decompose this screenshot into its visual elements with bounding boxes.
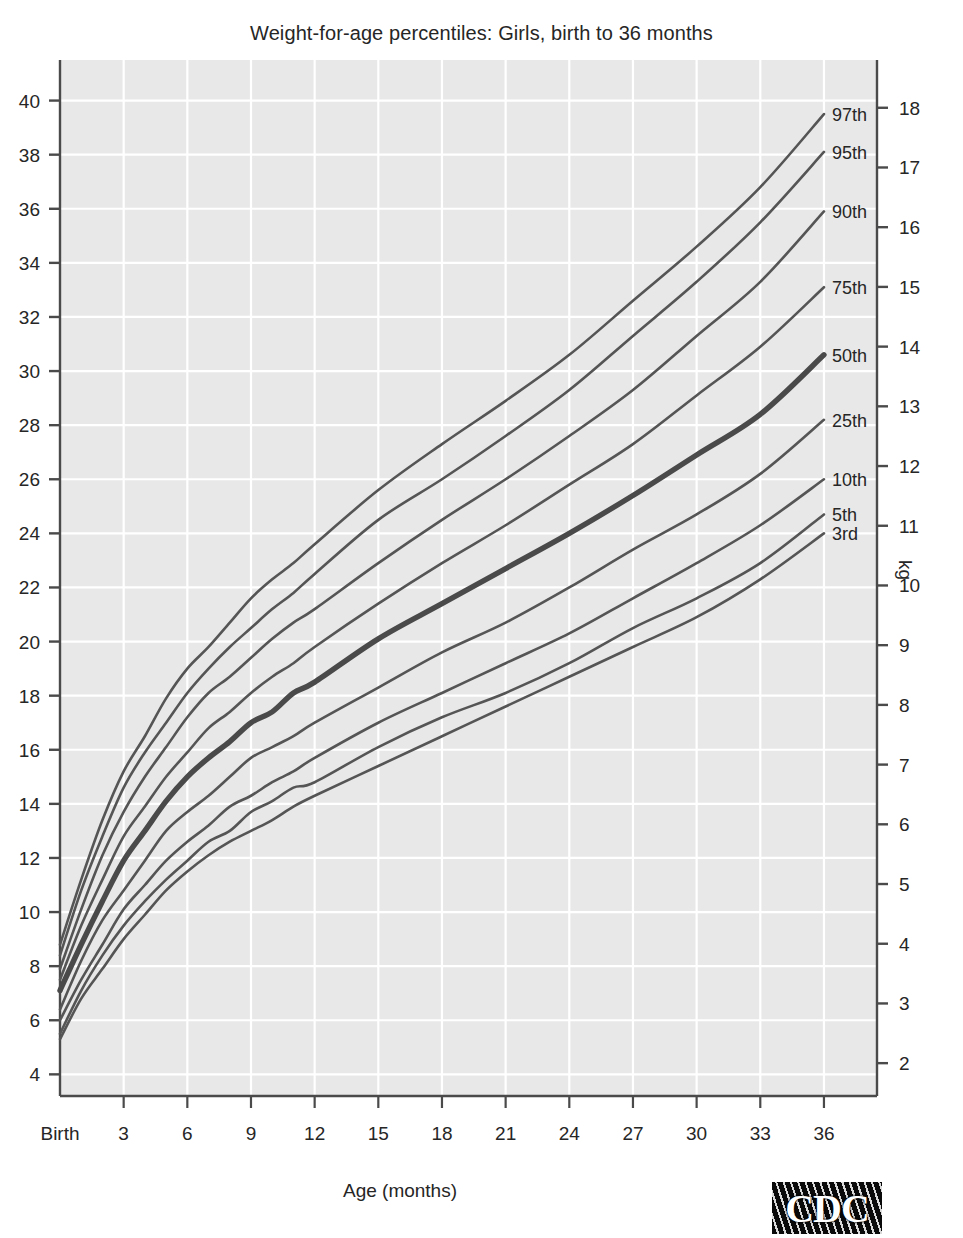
y-right-tick-label: 16 <box>899 217 920 238</box>
cdc-logo: CDC <box>772 1182 882 1234</box>
x-tick-label: Birth <box>40 1123 79 1144</box>
x-tick-label: 30 <box>686 1123 707 1144</box>
y-left-tick-label: 16 <box>19 740 40 761</box>
percentile-label-25th: 25th <box>832 411 867 431</box>
y-left-tick-label: 40 <box>19 91 40 112</box>
x-tick-label: 9 <box>246 1123 257 1144</box>
x-tick-label: 3 <box>118 1123 129 1144</box>
y-axis-right-label: kg <box>894 560 916 580</box>
x-tick-label: 6 <box>182 1123 193 1144</box>
percentile-label-95th: 95th <box>832 143 867 163</box>
x-axis-label: Age (months) <box>0 1180 800 1202</box>
percentile-label-3rd: 3rd <box>832 524 858 544</box>
y-right-tick-label: 7 <box>899 755 910 776</box>
y-right-tick-label: 8 <box>899 695 910 716</box>
y-left-tick-label: 24 <box>19 523 41 544</box>
y-right-tick-label: 6 <box>899 814 910 835</box>
y-left-tick-label: 10 <box>19 902 40 923</box>
x-tick-label: 33 <box>750 1123 771 1144</box>
y-left-tick-label: 38 <box>19 145 40 166</box>
y-right-tick-label: 17 <box>899 157 920 178</box>
y-right-tick-label: 2 <box>899 1053 910 1074</box>
growth-chart-page: Weight-for-age percentiles: Girls, birth… <box>0 0 963 1238</box>
y-left-tick-label: 20 <box>19 632 40 653</box>
percentile-label-10th: 10th <box>832 470 867 490</box>
weight-for-age-chart: 97th95th90th75th50th25th10th5th3rd Birth… <box>0 0 963 1160</box>
y-left-tick-label: 18 <box>19 686 40 707</box>
y-right-tick-label: 4 <box>899 934 910 955</box>
percentile-label-50th: 50th <box>832 346 867 366</box>
y-left-tick-label: 26 <box>19 469 40 490</box>
cdc-logo-text: CDC <box>772 1182 882 1234</box>
y-left-tick-label: 12 <box>19 848 40 869</box>
y-axis-right-tick-labels: 18171615141312111098765432 <box>899 98 921 1074</box>
percentile-label-97th: 97th <box>832 105 867 125</box>
y-left-tick-label: 34 <box>19 253 41 274</box>
y-left-tick-label: 30 <box>19 361 40 382</box>
x-tick-label: 36 <box>813 1123 834 1144</box>
x-tick-label: 12 <box>304 1123 325 1144</box>
x-tick-label: 27 <box>622 1123 643 1144</box>
y-left-tick-label: 32 <box>19 307 40 328</box>
y-right-tick-label: 3 <box>899 993 910 1014</box>
y-right-tick-label: 14 <box>899 337 921 358</box>
y-left-tick-label: 4 <box>29 1064 40 1085</box>
x-tick-label: 24 <box>559 1123 581 1144</box>
y-axis-left-tick-labels: 40383634323028262422201816141210864 <box>19 91 41 1086</box>
percentile-label-75th: 75th <box>832 278 867 298</box>
x-axis-tick-labels: Birth369121518212427303336 <box>40 1123 834 1144</box>
y-right-tick-label: 12 <box>899 456 920 477</box>
y-left-tick-label: 6 <box>29 1010 40 1031</box>
plot-background <box>60 60 877 1096</box>
y-left-tick-label: 22 <box>19 577 40 598</box>
x-tick-label: 21 <box>495 1123 516 1144</box>
y-left-tick-label: 14 <box>19 794 41 815</box>
y-right-tick-label: 5 <box>899 874 910 895</box>
y-left-tick-label: 36 <box>19 199 40 220</box>
chart-title: Weight-for-age percentiles: Girls, birth… <box>0 22 963 45</box>
x-tick-label: 18 <box>431 1123 452 1144</box>
y-right-tick-label: 13 <box>899 396 920 417</box>
y-left-tick-label: 8 <box>29 956 40 977</box>
y-right-tick-label: 9 <box>899 635 910 656</box>
x-tick-label: 15 <box>368 1123 389 1144</box>
percentile-label-5th: 5th <box>832 505 857 525</box>
y-right-tick-label: 11 <box>899 516 919 537</box>
y-right-tick-label: 18 <box>899 98 920 119</box>
y-right-tick-label: 15 <box>899 277 920 298</box>
y-left-tick-label: 28 <box>19 415 40 436</box>
percentile-label-90th: 90th <box>832 202 867 222</box>
